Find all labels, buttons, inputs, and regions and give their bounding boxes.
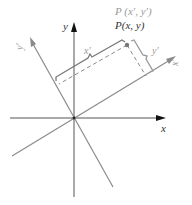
y-prime-axis-label: y′ <box>14 43 25 51</box>
x-prime-axis-label: x′ <box>169 59 180 67</box>
rotation-diagram: x y x′ y′ P (x′, y′) P(x, y) x′ y′ <box>0 0 192 205</box>
y-prime-brace-label: y′ <box>151 45 159 56</box>
projection-to-x-prime <box>127 45 146 76</box>
point-p <box>125 43 129 47</box>
origin-point <box>73 117 76 120</box>
y-prime-axis <box>33 44 113 187</box>
y-axis-label: y <box>62 20 68 32</box>
x-axis-arrowhead <box>156 115 166 121</box>
y-prime-brace <box>131 40 153 72</box>
x-prime-brace-label: x′ <box>83 45 91 56</box>
x-axis-label: x <box>160 122 166 134</box>
y-prime-axis-arrowhead <box>30 37 36 47</box>
point-prime-label: P (x′, y′) <box>114 5 152 18</box>
x-prime-axis <box>12 60 170 156</box>
projection-to-y-prime <box>59 45 127 84</box>
point-label: P(x, y) <box>114 19 145 32</box>
y-axis-arrowhead <box>71 22 77 32</box>
